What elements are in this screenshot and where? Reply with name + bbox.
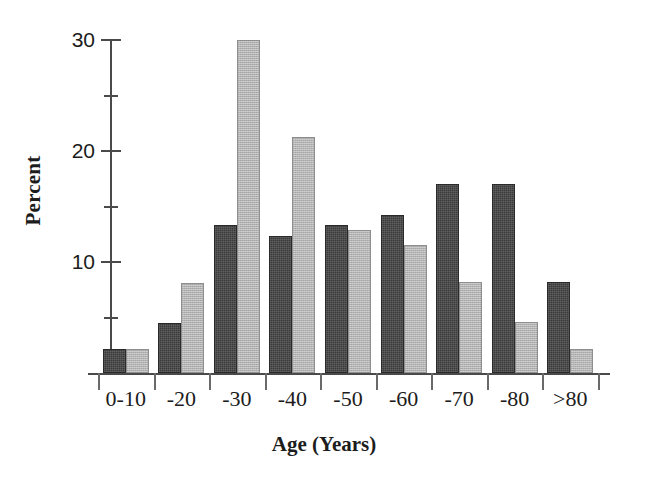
bar-dark-50: [325, 225, 348, 373]
x-axis-label-50: -50: [320, 386, 376, 412]
bar-group: [492, 40, 538, 373]
x-axis-label-30: -30: [209, 386, 265, 412]
x-axis-label-80: -80: [487, 386, 543, 412]
x-axis-label-40: -40: [265, 386, 321, 412]
bar-group: [103, 40, 149, 373]
bar-group: [325, 40, 371, 373]
x-axis-title: Age (Years): [0, 432, 648, 457]
bar-dark-40: [269, 236, 292, 373]
bar-light-80: [515, 322, 538, 373]
x-axis-label-20: -20: [154, 386, 210, 412]
bar-dark-30: [214, 225, 237, 373]
y-axis-tick-label: 20: [72, 139, 95, 163]
bar-light-70: [459, 282, 482, 373]
bar-dark-010: [103, 349, 126, 373]
x-axis-tick: [598, 373, 600, 390]
bar-dark-20: [158, 323, 181, 373]
plot-area: 102030: [110, 40, 610, 373]
y-axis-tick-label: 30: [72, 28, 95, 52]
x-axis-label-010: 0-10: [98, 386, 154, 412]
bar-chart-figure: Percent 102030 0-10-20-30-40-50-60-70-80…: [0, 0, 648, 488]
x-axis-label-60: -60: [376, 386, 432, 412]
bar-light-010: [126, 349, 149, 373]
bar-light-60: [404, 245, 427, 373]
bar-light-40: [292, 137, 315, 373]
bar-dark-80: [547, 282, 570, 373]
bar-light-80: [570, 349, 593, 373]
bar-group: [436, 40, 482, 373]
bar-light-20: [181, 283, 204, 373]
bar-light-30: [237, 40, 260, 373]
bar-group: [547, 40, 593, 373]
bar-dark-60: [381, 215, 404, 373]
bar-dark-80: [492, 184, 515, 373]
bar-group: [158, 40, 204, 373]
y-axis-title-text: Percent: [22, 155, 47, 225]
bar-group: [381, 40, 427, 373]
y-axis-title: Percent: [6, 0, 62, 380]
x-axis-label-80: >80: [542, 386, 598, 412]
bar-light-50: [348, 230, 371, 373]
bar-dark-70: [436, 184, 459, 373]
x-axis-label-70: -70: [431, 386, 487, 412]
y-axis-tick-label: 10: [72, 250, 95, 274]
bar-group: [269, 40, 315, 373]
bar-group: [214, 40, 260, 373]
x-axis-title-text: Age (Years): [272, 432, 376, 456]
x-axis-line: [88, 373, 610, 375]
